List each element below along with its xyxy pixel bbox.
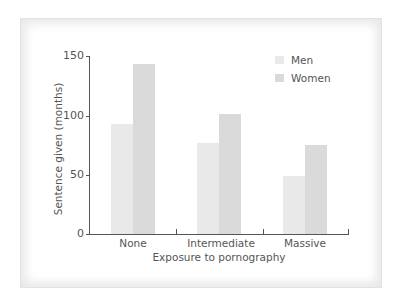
y-tick-label-0: 0 — [54, 228, 84, 240]
x-axis-line — [89, 234, 349, 235]
bar-none-women — [133, 64, 155, 234]
y-tick-50 — [86, 175, 90, 176]
y-tick-label-150: 150 — [54, 50, 84, 62]
category-label-none: None — [88, 237, 178, 249]
legend-swatch-men — [275, 56, 284, 64]
legend-label-women: Women — [291, 72, 331, 84]
category-label-intermediate: Intermediate — [176, 237, 266, 249]
bar-massive-women — [305, 145, 327, 234]
x-axis-title: Exposure to pornography — [89, 251, 349, 263]
bar-massive-men — [283, 176, 305, 234]
y-tick-0 — [86, 234, 90, 235]
bar-chart: 150 100 50 0 None Intermediate Massive E… — [0, 0, 394, 307]
legend-item-men: Men — [275, 54, 313, 66]
bar-intermediate-women — [219, 114, 241, 234]
legend-label-men: Men — [291, 54, 313, 66]
y-axis-title: Sentence given (months) — [52, 83, 64, 216]
y-axis-line — [89, 56, 90, 235]
y-tick-100 — [86, 116, 90, 117]
legend-swatch-women — [275, 74, 284, 82]
y-tick-150 — [86, 56, 90, 57]
category-label-massive: Massive — [260, 237, 350, 249]
bar-intermediate-men — [197, 143, 219, 234]
x-tick-2 — [263, 229, 264, 234]
x-tick-3 — [348, 229, 349, 234]
x-tick-1 — [176, 229, 177, 234]
legend-item-women: Women — [275, 72, 331, 84]
bar-none-men — [111, 124, 133, 234]
